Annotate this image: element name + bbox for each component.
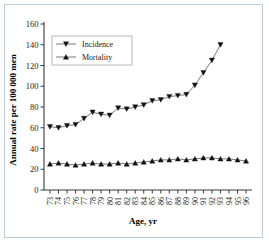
y-tick-label: 20 [30, 164, 39, 174]
y-tick-label: 160 [26, 19, 39, 29]
chart-legend: IncidenceMortality [52, 36, 132, 65]
y-tick-label: 100 [26, 81, 39, 91]
y-tick-label: 40 [30, 144, 39, 154]
series-mortality [47, 155, 248, 167]
x-axis: 7374757677787980818283848586878889909192… [44, 190, 252, 205]
chart-svg: 020406080100120140160 737475767778798081… [0, 0, 269, 244]
y-tick-label: 0 [34, 185, 38, 195]
y-tick-label: 60 [30, 123, 39, 133]
y-axis: 020406080100120140160 [26, 19, 44, 195]
y-tick-label: 120 [26, 61, 39, 71]
x-axis-title: Age, yr [129, 216, 157, 226]
data-point [218, 43, 223, 48]
y-tick-label: 80 [30, 102, 39, 112]
x-tick-label: 96 [242, 197, 251, 205]
chart-figure: 020406080100120140160 737475767778798081… [0, 0, 269, 244]
data-point [209, 58, 214, 63]
legend-label-incidence: Incidence [82, 40, 114, 49]
y-axis-title: Annual rate per 100 000 men [8, 54, 18, 166]
y-tick-label: 140 [26, 40, 39, 50]
data-point [201, 71, 206, 76]
legend-label-mortality: Mortality [82, 53, 112, 62]
